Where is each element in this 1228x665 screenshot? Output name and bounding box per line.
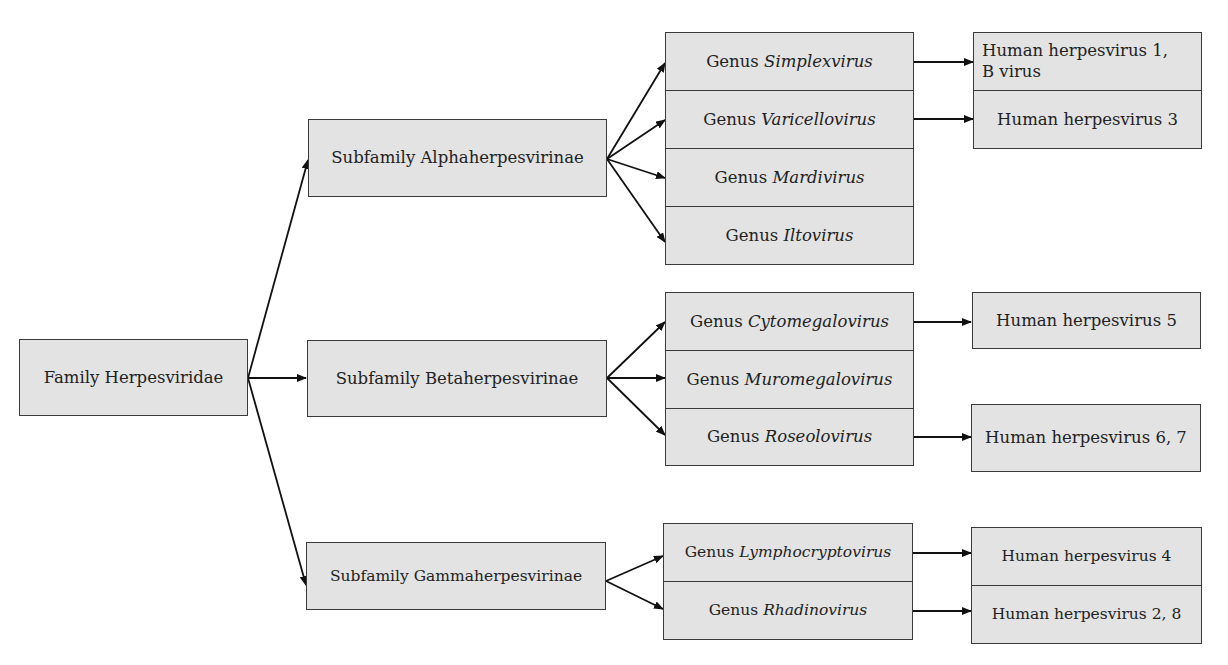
subfamily-gamma-label: Subfamily Gammaherpesvirinae: [330, 566, 582, 586]
virus-hhv2-8-node: Human herpesvirus 2, 8: [971, 585, 1202, 644]
genus-prefix: Genus: [687, 370, 745, 389]
genus-prefix: Genus: [685, 543, 739, 561]
virus-hhv3-node: Human herpesvirus 3: [973, 90, 1202, 149]
genus-name: Varicellovirus: [761, 110, 875, 129]
genus-iltovirus-node: Genus Iltovirus: [665, 206, 914, 265]
subfamily-beta-label: Subfamily Betaherpesvirinae: [336, 368, 579, 389]
virus-hhv1-bvirus-node: Human herpesvirus 1, B virus: [973, 32, 1202, 91]
genus-name: Iltovirus: [783, 226, 853, 245]
genus-name: Mardivirus: [772, 168, 864, 187]
genus-varicellovirus-node: Genus Varicellovirus: [665, 90, 914, 149]
genus-name: Simplexvirus: [764, 52, 873, 71]
genus-prefix: Genus: [707, 427, 765, 446]
genus-rhadinovirus-node: Genus Rhadinovirus: [663, 581, 913, 640]
virus-label-line2: B virus: [982, 62, 1168, 83]
virus-label: Human herpesvirus 6, 7: [985, 427, 1187, 448]
genus-cytomegalovirus-node: Genus Cytomegalovirus: [665, 292, 914, 351]
virus-label: Human herpesvirus 2, 8: [992, 604, 1182, 624]
virus-hhv4-node: Human herpesvirus 4: [971, 527, 1202, 586]
genus-name: Rhadinovirus: [763, 601, 867, 619]
subfamily-gamma-node: Subfamily Gammaherpesvirinae: [306, 542, 606, 610]
virus-label: Human herpesvirus 5: [996, 310, 1177, 331]
genus-muromegalovirus-node: Genus Muromegalovirus: [665, 350, 914, 409]
genus-lymphocryptovirus-node: Genus Lymphocryptovirus: [663, 523, 913, 582]
genus-prefix: Genus: [703, 110, 761, 129]
virus-label: Human herpesvirus 1,: [982, 41, 1168, 62]
virus-label: Human herpesvirus 3: [997, 109, 1178, 130]
genus-prefix: Genus: [726, 226, 784, 245]
genus-name: Lymphocryptovirus: [739, 543, 891, 561]
genus-name: Cytomegalovirus: [748, 312, 889, 331]
subfamily-alpha-node: Subfamily Alphaherpesvirinae: [308, 119, 607, 197]
family-herpesviridae-node: Family Herpesviridae: [19, 339, 248, 416]
genus-name: Roseolovirus: [765, 427, 872, 446]
virus-label: Human herpesvirus 4: [1002, 546, 1172, 566]
genus-prefix: Genus: [709, 601, 763, 619]
subfamily-alpha-label: Subfamily Alphaherpesvirinae: [331, 147, 584, 168]
virus-hhv6-7-node: Human herpesvirus 6, 7: [971, 404, 1201, 472]
genus-mardivirus-node: Genus Mardivirus: [665, 148, 914, 207]
subfamily-beta-node: Subfamily Betaherpesvirinae: [307, 340, 607, 417]
genus-prefix: Genus: [706, 52, 764, 71]
genus-roseolovirus-node: Genus Roseolovirus: [665, 408, 914, 466]
genus-prefix: Genus: [715, 168, 773, 187]
genus-simplexvirus-node: Genus Simplexvirus: [665, 32, 914, 91]
virus-hhv5-node: Human herpesvirus 5: [972, 292, 1201, 349]
genus-prefix: Genus: [690, 312, 748, 331]
genus-name: Muromegalovirus: [744, 370, 892, 389]
family-label: Family Herpesviridae: [44, 367, 224, 388]
